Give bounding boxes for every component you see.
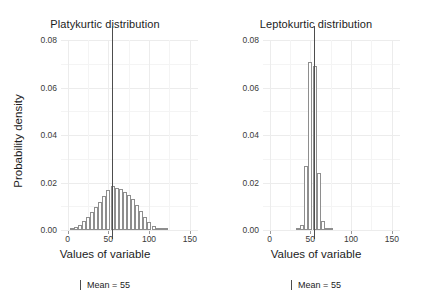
gridline-v-minor bbox=[290, 40, 291, 230]
caption-text: Mean = 55 bbox=[298, 280, 341, 290]
caption-text: Mean = 55 bbox=[87, 280, 130, 290]
mean-line-key-icon bbox=[80, 280, 81, 290]
y-tick-label: 0.04 bbox=[242, 130, 259, 140]
x-tick-label: 50 bbox=[104, 234, 113, 244]
x-tick-label: 100 bbox=[142, 234, 156, 244]
y-tick-label: 0.02 bbox=[242, 178, 259, 188]
gridline-h bbox=[61, 230, 198, 231]
gridline-v bbox=[190, 40, 191, 230]
panel-title-platykurtic: Platykurtic distribution bbox=[0, 18, 210, 30]
histogram-bar bbox=[164, 228, 168, 230]
y-tick-label: 0.04 bbox=[40, 130, 57, 140]
mean-line bbox=[314, 26, 315, 239]
gridline-v bbox=[68, 40, 69, 230]
gridline-v-minor bbox=[169, 40, 170, 230]
gridline-h bbox=[263, 230, 400, 231]
caption-right: Mean = 55 bbox=[211, 280, 421, 290]
y-axis-ticks-left: 0.00 0.02 0.04 0.06 0.08 bbox=[21, 40, 57, 230]
x-tick-label: 150 bbox=[183, 234, 197, 244]
x-axis-label-left: Values of variable bbox=[0, 248, 210, 260]
x-tick-label: 100 bbox=[344, 234, 358, 244]
gridline-v bbox=[149, 40, 150, 230]
gridline-v-minor bbox=[331, 40, 332, 230]
mean-line-key-icon bbox=[291, 280, 292, 290]
gridline-v-minor bbox=[371, 40, 372, 230]
x-tick-label: 0 bbox=[65, 234, 70, 244]
y-tick-label: 0.00 bbox=[242, 225, 259, 235]
gridline-v bbox=[392, 40, 393, 230]
figure-container: Platykurtic distribution 0.00 0.02 0.04 … bbox=[0, 0, 421, 306]
y-tick-label: 0.02 bbox=[40, 178, 57, 188]
y-tick-label: 0.00 bbox=[40, 225, 57, 235]
plot-area-platykurtic bbox=[61, 40, 198, 231]
caption-left: Mean = 55 bbox=[0, 280, 210, 290]
x-axis-label-right: Values of variable bbox=[211, 248, 421, 260]
y-tick-label: 0.08 bbox=[242, 35, 259, 45]
panel-platykurtic: Platykurtic distribution 0.00 0.02 0.04 … bbox=[0, 0, 210, 306]
gridline-v-minor bbox=[88, 40, 89, 230]
y-axis-ticks-right: 0.00 0.02 0.04 0.06 0.08 bbox=[223, 40, 259, 230]
x-tick-label: 0 bbox=[267, 234, 272, 244]
gridline-v bbox=[270, 40, 271, 230]
y-axis-label-left: Probability density bbox=[12, 61, 24, 221]
x-tick-label: 50 bbox=[306, 234, 315, 244]
plot-area-leptokurtic bbox=[263, 40, 400, 231]
y-tick-label: 0.06 bbox=[242, 83, 259, 93]
x-tick-label: 150 bbox=[385, 234, 399, 244]
histogram-bar bbox=[329, 228, 333, 230]
panel-leptokurtic: Leptokurtic distribution 0.00 0.02 0.04 … bbox=[211, 0, 421, 306]
y-tick-label: 0.08 bbox=[40, 35, 57, 45]
mean-line bbox=[112, 26, 113, 239]
panel-title-leptokurtic: Leptokurtic distribution bbox=[211, 18, 421, 30]
y-tick-label: 0.06 bbox=[40, 83, 57, 93]
gridline-v bbox=[351, 40, 352, 230]
